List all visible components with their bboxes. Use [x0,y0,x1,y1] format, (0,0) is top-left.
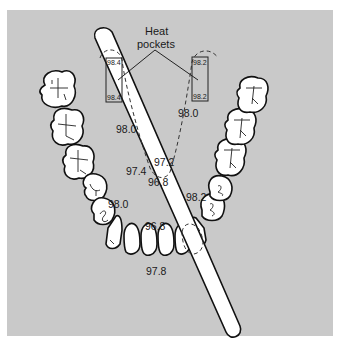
tooth-right-molar-1 [237,77,268,113]
tooth-right-molar-2 [225,109,256,145]
temp-left-mid: 98.0 [108,198,129,210]
tooth-left-molar-2 [51,108,84,145]
right-pocket-bottom-value: 98.2 [193,93,207,100]
temp-tongue-center-bottom: 96.8 [148,176,169,188]
heat-pocket-right: 98.2 98.2 [192,57,208,101]
tooth-left-premolar-1 [83,174,107,201]
heat-pockets-label-line1: Heat [145,25,168,37]
tooth-right-premolar-1 [209,176,232,201]
tooth-left-lateral-incisor [124,224,140,254]
temp-tongue-center-left: 97.4 [126,165,147,177]
temp-front-outer: 97.8 [146,265,167,277]
temp-tongue-center-right: 97.2 [154,156,175,168]
temp-right-cheek-upper: 98.0 [178,107,199,119]
left-pocket-top-value: 98.4 [107,59,121,66]
left-pocket-bottom-value: 98.4 [107,94,121,101]
mouth-temperature-diagram: 98.4 98.4 98.2 98.2 Heat pockets 98.0 98… [0,0,338,344]
temp-right-mid: 98.2 [186,191,207,203]
temp-front-inner: 96.8 [145,220,166,232]
heat-pockets-label-line2: pockets [137,38,175,50]
right-pocket-top-value: 98.2 [193,59,207,66]
temp-left-cheek-upper: 98.0 [116,123,137,135]
